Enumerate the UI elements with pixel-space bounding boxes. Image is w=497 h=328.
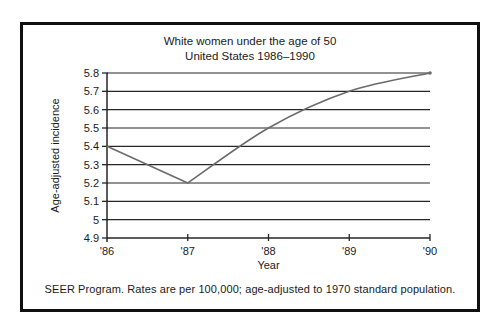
y-axis-title: Age-adjusted incidence	[49, 98, 61, 212]
x-tick-label: '87	[181, 245, 195, 257]
y-tick-label: 5.7	[84, 85, 99, 97]
line-endpoint-marker	[428, 71, 432, 75]
x-tick-label: '88	[261, 245, 275, 257]
y-tick-label: 5.5	[84, 122, 99, 134]
x-tick-label: '86	[100, 245, 114, 257]
line-chart: 4.955.15.25.35.45.55.65.75.8'86'87'88'89…	[23, 25, 477, 309]
y-tick-label: 5.2	[84, 177, 99, 189]
y-tick-label: 5.3	[84, 159, 99, 171]
y-tick-label: 4.9	[84, 232, 99, 244]
y-tick-label: 5	[93, 214, 99, 226]
y-tick-label: 5.1	[84, 195, 99, 207]
x-axis-title: Year	[257, 259, 280, 271]
x-tick-label: '90	[423, 245, 437, 257]
y-tick-label: 5.6	[84, 104, 99, 116]
source-note: SEER Program. Rates are per 100,000; age…	[23, 283, 477, 295]
x-tick-label: '89	[342, 245, 356, 257]
y-tick-label: 5.8	[84, 67, 99, 79]
y-tick-label: 5.4	[84, 140, 99, 152]
figure-frame: White women under the age of 50 United S…	[20, 22, 480, 312]
